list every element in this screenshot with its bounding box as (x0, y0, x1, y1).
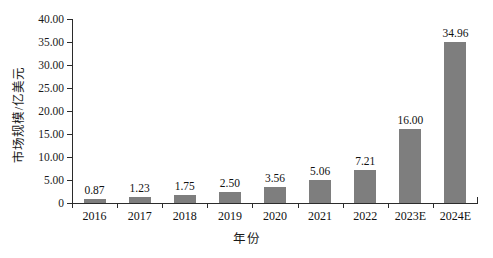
y-tick-label: 40.00 (38, 13, 64, 25)
x-category-label: 2019 (218, 209, 242, 224)
x-category-label: 2021 (308, 209, 332, 224)
x-axis-end-tick (477, 197, 478, 204)
x-category-label: 2024E (440, 209, 471, 224)
x-tick-mark (162, 203, 163, 208)
y-axis-spine (72, 19, 73, 203)
bar-chart: 市场规模/亿美元 05.0010.0015.0020.0025.0030.003… (0, 0, 493, 258)
x-tick-mark (72, 203, 73, 208)
y-tick-mark (67, 111, 72, 112)
bar (399, 129, 421, 203)
x-axis-spine (72, 203, 478, 204)
x-category-label: 2016 (83, 209, 107, 224)
x-tick-mark (388, 203, 389, 208)
x-category-label: 2023E (395, 209, 426, 224)
x-tick-mark (433, 203, 434, 208)
x-tick-mark (117, 203, 118, 208)
bar (219, 192, 241, 204)
bar-value-label: 0.87 (84, 184, 104, 196)
y-tick-label: 25.00 (38, 82, 64, 94)
y-axis-title: 市场规模/亿美元 (10, 15, 28, 215)
x-category-label: 2022 (353, 209, 377, 224)
bar-value-label: 16.00 (397, 114, 423, 126)
bar (264, 187, 286, 203)
bar (174, 195, 196, 203)
y-tick-label: 20.00 (38, 105, 64, 117)
bar-value-label: 1.23 (130, 182, 150, 194)
bar-value-label: 2.50 (220, 177, 240, 189)
y-tick-mark (67, 180, 72, 181)
y-tick-mark (67, 88, 72, 89)
x-category-label: 2017 (128, 209, 152, 224)
y-tick-mark (67, 42, 72, 43)
y-tick-mark (67, 157, 72, 158)
bar-value-label: 1.75 (175, 180, 195, 192)
bar (84, 199, 106, 203)
y-tick-label: 10.00 (38, 151, 64, 163)
x-tick-mark (343, 203, 344, 208)
bar (129, 197, 151, 203)
y-tick-mark (67, 65, 72, 66)
bar (444, 42, 466, 203)
x-axis-title: 年份 (0, 228, 493, 247)
y-tick-label: 30.00 (38, 59, 64, 71)
x-category-label: 2020 (263, 209, 287, 224)
y-tick-mark (67, 19, 72, 20)
bar-value-label: 5.06 (310, 165, 330, 177)
y-tick-label: 35.00 (38, 36, 64, 48)
x-tick-mark (252, 203, 253, 208)
x-tick-mark (298, 203, 299, 208)
y-tick-label: 15.00 (38, 128, 64, 140)
y-tick-label: 0 (58, 197, 64, 209)
bar-value-label: 7.21 (355, 155, 375, 167)
y-tick-mark (67, 134, 72, 135)
bar (354, 170, 376, 203)
bar (309, 180, 331, 203)
bar-value-label: 34.96 (443, 27, 469, 39)
bar-value-label: 3.56 (265, 172, 285, 184)
x-tick-mark (207, 203, 208, 208)
x-category-label: 2018 (173, 209, 197, 224)
y-tick-label: 5.00 (44, 174, 64, 186)
plot-area: 05.0010.0015.0020.0025.0030.0035.0040.00… (72, 19, 478, 203)
